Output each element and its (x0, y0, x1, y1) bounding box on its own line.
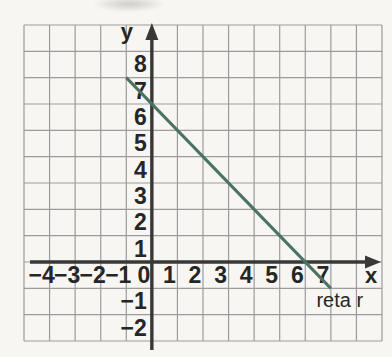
graph-figure: −4−3−2−101234567−2−112345678xyreta r (0, 0, 392, 357)
x-tick-label: −2 (80, 262, 106, 288)
y-tick-label: 1 (134, 236, 147, 262)
y-tick-label: 8 (134, 51, 147, 77)
x-axis-label: x (365, 263, 378, 288)
line-annotation: reta r (316, 289, 363, 311)
x-tick-label: −3 (54, 262, 80, 288)
y-tick-label: 3 (134, 183, 147, 209)
x-tick-label: −1 (105, 262, 131, 288)
x-tick-label: 6 (291, 262, 304, 288)
x-tick-label: 1 (163, 262, 176, 288)
x-tick-label: 2 (189, 262, 202, 288)
x-tick-label: 0 (137, 262, 150, 288)
y-tick-label: 6 (134, 104, 147, 130)
y-tick-label: 2 (134, 209, 147, 235)
y-tick-label: 4 (134, 157, 147, 183)
coordinate-plane-chart: −4−3−2−101234567−2−112345678xyreta r (0, 0, 392, 357)
y-tick-label: −1 (121, 288, 147, 314)
x-tick-label: 3 (214, 262, 227, 288)
x-tick-label: 5 (265, 262, 278, 288)
x-tick-label: 4 (240, 262, 253, 288)
y-axis-label: y (121, 19, 134, 44)
y-tick-label: 5 (134, 130, 147, 156)
x-tick-label: −4 (28, 262, 54, 288)
y-tick-label: −2 (121, 315, 147, 341)
